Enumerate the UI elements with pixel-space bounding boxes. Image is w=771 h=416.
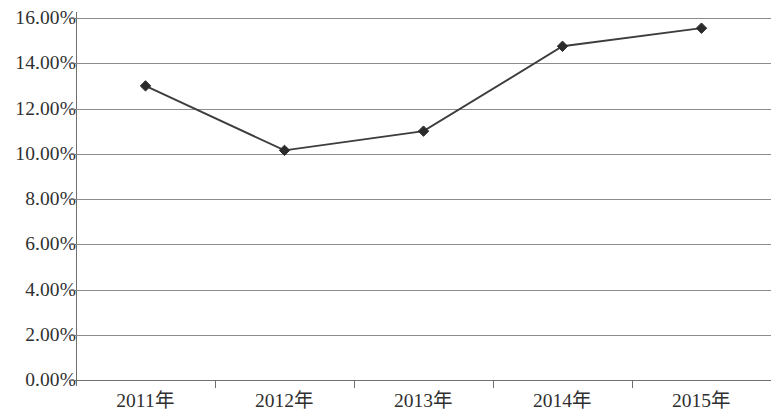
y-tick-mark <box>69 199 76 200</box>
line-chart: 16.00%14.00%12.00%10.00%8.00%6.00%4.00%2… <box>0 0 771 416</box>
y-tick-mark <box>69 290 76 291</box>
y-tick-mark <box>69 154 76 155</box>
data-point-marker <box>696 23 706 33</box>
y-tick-mark <box>69 380 76 381</box>
data-point-marker <box>279 145 289 155</box>
y-tick-mark <box>69 335 76 336</box>
series-markers <box>140 23 706 156</box>
data-point-marker <box>418 126 428 136</box>
y-tick-mark <box>69 18 76 19</box>
y-tick-mark <box>69 244 76 245</box>
data-series-layer <box>0 0 771 416</box>
y-tick-mark <box>69 63 76 64</box>
data-point-marker <box>140 81 150 91</box>
data-point-marker <box>557 41 567 51</box>
y-tick-mark <box>69 109 76 110</box>
